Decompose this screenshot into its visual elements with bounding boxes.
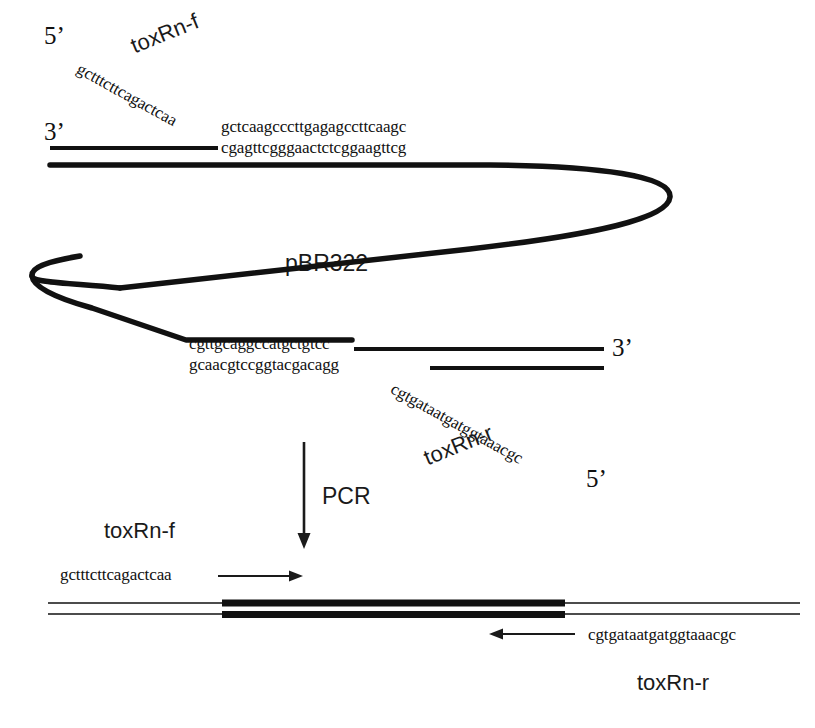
diagram-line-art bbox=[0, 0, 815, 728]
top-duplex-upper-strand-bar bbox=[50, 146, 218, 150]
top-duplex-top-strand-sequence: gctcaagcccttgagagccttcaagc bbox=[221, 117, 406, 137]
product-forward-primer-arrow-head bbox=[289, 571, 303, 582]
pcr-step-label: PCR bbox=[322, 483, 371, 510]
toxRn-f-primer-label-top: toxRn-f bbox=[127, 8, 202, 59]
figure-canvas: 5’ gctttcttcagactcaa toxRn-f 3’ gctcaagc… bbox=[0, 0, 815, 728]
plasmid-backbone-left-turn bbox=[32, 256, 120, 288]
top-duplex-bottom-strand-sequence: cgagttcgggaactctcggaagttcg bbox=[221, 138, 406, 158]
product-amplicon-lower-thick-band bbox=[222, 611, 565, 618]
product-forward-primer-label: toxRn-f bbox=[104, 518, 175, 544]
top-duplex-five-prime-label: 5’ bbox=[44, 22, 65, 50]
product-reverse-primer-arrow-head bbox=[489, 629, 503, 640]
product-amplicon-upper-thick-band bbox=[222, 600, 565, 607]
bottom-duplex-five-prime-label: 5’ bbox=[586, 465, 607, 493]
bottom-duplex-lower-strand-bar bbox=[430, 366, 604, 370]
plasmid-backbone-lower-sweep bbox=[32, 276, 352, 340]
bottom-duplex-top-strand-sequence: cgttgcaggccatgctgtcc bbox=[189, 334, 330, 354]
pcr-arrow-head bbox=[298, 533, 311, 549]
product-reverse-primer-sequence: cgtgataatgatggtaaacgc bbox=[588, 625, 736, 645]
product-reverse-primer-label: toxRn-r bbox=[637, 670, 709, 696]
top-duplex-three-prime-label: 3’ bbox=[44, 118, 65, 146]
toxRn-f-primer-sequence-diagonal: gctttcttcagactcaa bbox=[73, 59, 180, 131]
bottom-duplex-bottom-strand-sequence: gcaacgtccggtacgacagg bbox=[189, 355, 339, 375]
bottom-duplex-upper-strand-bar bbox=[354, 347, 604, 351]
plasmid-label-pBR322: pBR322 bbox=[285, 250, 368, 277]
bottom-duplex-three-prime-label: 3’ bbox=[612, 334, 633, 362]
product-forward-primer-sequence: gctttcttcagactcaa bbox=[60, 565, 172, 585]
